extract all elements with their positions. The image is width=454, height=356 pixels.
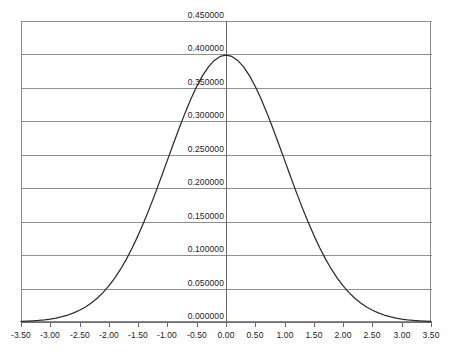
x-axis-tick <box>314 323 315 327</box>
x-axis-tick <box>197 323 198 327</box>
y-axis-tick-label: 0.250000 <box>154 144 224 154</box>
y-axis-tick-label: 0.400000 <box>154 43 224 53</box>
x-axis-tick <box>402 323 403 327</box>
y-axis-tick-label: 0.050000 <box>154 278 224 288</box>
y-axis-tick-label: 0.000000 <box>154 311 224 321</box>
x-axis-tick <box>372 323 373 327</box>
y-axis-tick-label: 0.150000 <box>154 211 224 221</box>
x-axis-tick <box>80 323 81 327</box>
x-axis-tick <box>21 323 22 327</box>
y-axis-tick-label: 0.200000 <box>154 177 224 187</box>
x-axis-tick <box>285 323 286 327</box>
normal-distribution-chart: 0.4500000.4000000.3500000.3000000.250000… <box>0 0 454 356</box>
x-axis-tick <box>255 323 256 327</box>
x-axis-tick <box>167 323 168 327</box>
x-axis-tick <box>50 323 51 327</box>
y-axis-tick-label: 0.450000 <box>154 10 224 20</box>
x-axis-tick <box>109 323 110 327</box>
x-axis-tick <box>431 323 432 327</box>
x-axis-tick <box>226 323 227 327</box>
y-axis-tick-label: 0.100000 <box>154 244 224 254</box>
y-axis-tick-label: 0.300000 <box>154 110 224 120</box>
x-axis-tick-label: 3.50 <box>411 330 451 340</box>
y-axis-tick-label: 0.350000 <box>154 77 224 87</box>
x-axis-tick <box>138 323 139 327</box>
x-axis-tick <box>343 323 344 327</box>
y-axis-line <box>226 21 227 323</box>
